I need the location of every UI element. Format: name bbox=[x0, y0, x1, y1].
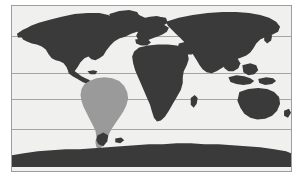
world-map-svg bbox=[12, 6, 291, 171]
world-map-figure bbox=[11, 5, 292, 172]
